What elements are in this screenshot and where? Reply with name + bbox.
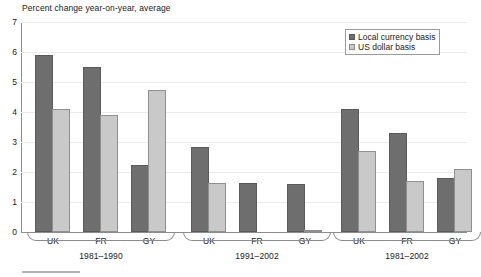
group-period-label: 1991–2002 <box>183 251 331 261</box>
group-bracket <box>333 232 481 241</box>
y-tick-label: 1 <box>3 198 17 207</box>
legend-label: Local currency basis <box>358 33 435 42</box>
y-tick-label: 6 <box>3 48 17 57</box>
bar-local-currency <box>131 165 149 233</box>
group-period-label: 1981–2002 <box>333 251 481 261</box>
legend-swatch-light-icon <box>349 44 355 50</box>
bar-us-dollar <box>406 181 424 232</box>
bar-local-currency <box>341 109 359 232</box>
bar-us-dollar <box>100 115 118 232</box>
bar-cluster <box>437 22 475 232</box>
legend-swatch-dark-icon <box>349 34 355 40</box>
bar-local-currency <box>437 178 455 232</box>
group-bracket <box>183 232 331 241</box>
legend-item: US dollar basis <box>349 42 435 52</box>
bar-cluster <box>35 22 73 232</box>
y-tick-label: 3 <box>3 138 17 147</box>
bar-us-dollar <box>358 151 376 232</box>
group-period-label: 1981–1990 <box>27 251 175 261</box>
bar-us-dollar <box>208 183 226 233</box>
y-tick-label: 2 <box>3 168 17 177</box>
caption-rule-divider <box>22 271 80 273</box>
y-tick-label: 7 <box>3 18 17 27</box>
bar-local-currency <box>35 55 53 232</box>
bar-local-currency <box>239 183 257 232</box>
y-tick-label: 4 <box>3 108 17 117</box>
y-tick-label: 5 <box>3 78 17 87</box>
bar-local-currency <box>287 184 305 232</box>
chart-title: Percent change year-on-year, average <box>22 3 171 13</box>
bar-cluster <box>239 22 277 232</box>
chart-legend: Local currency basis US dollar basis <box>345 29 440 55</box>
y-tick-label: 0 <box>3 228 17 237</box>
bar-cluster <box>191 22 229 232</box>
bar-local-currency <box>389 133 407 232</box>
bar-us-dollar <box>454 169 472 232</box>
bar-local-currency <box>83 67 101 232</box>
bar-local-currency <box>191 147 209 233</box>
bar-cluster <box>131 22 169 232</box>
legend-item: Local currency basis <box>349 32 435 42</box>
legend-label: US dollar basis <box>358 43 415 52</box>
bar-cluster <box>287 22 325 232</box>
bar-us-dollar <box>52 109 70 232</box>
bar-us-dollar <box>148 90 166 233</box>
bar-cluster <box>83 22 121 232</box>
y-axis-tick-labels: 01234567 <box>0 22 17 232</box>
group-bracket <box>27 232 175 241</box>
